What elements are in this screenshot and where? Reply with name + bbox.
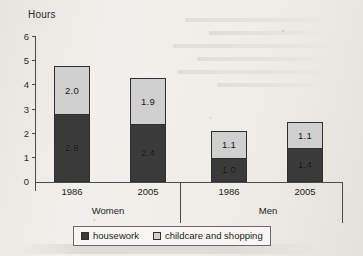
bar-segment-housework-women-1986[interactable]: 2.8 [54, 114, 90, 182]
bar-segment-childcare-men-2005[interactable]: 1.1 [287, 122, 323, 149]
bar-segment-childcare-men-1986[interactable]: 1.1 [211, 131, 247, 158]
y-axis-title: Hours [28, 9, 56, 20]
legend-label-childcare-and-shopping: childcare and shopping [165, 231, 263, 241]
bar-value-label: 2.0 [65, 86, 79, 96]
y-tick-label-3: 3 [15, 103, 29, 114]
y-tick-label-2: 2 [15, 127, 29, 138]
x-axis-label-men-2005: 2005 [275, 186, 335, 197]
group-label-men: Men [223, 205, 313, 216]
group-axis-band: Women Men [35, 203, 343, 223]
bar-value-label: 1.1 [222, 140, 236, 150]
bar-men-2005[interactable]: 1.1 1.4 [287, 122, 323, 182]
bar-value-label: 1.0 [222, 165, 236, 175]
bar-segment-housework-men-1986[interactable]: 1.0 [211, 158, 247, 182]
bar-value-label: 2.4 [141, 148, 155, 158]
bar-value-label: 1.1 [298, 131, 312, 141]
bar-value-label: 1.4 [298, 160, 312, 170]
bar-men-1986[interactable]: 1.1 1.0 [211, 131, 247, 182]
group-label-women: Women [63, 205, 153, 216]
bar-segment-childcare-women-2005[interactable]: 1.9 [130, 78, 166, 124]
y-tick-label-6: 6 [15, 31, 29, 42]
category-tick-left [35, 183, 36, 191]
y-tick-label-1: 1 [15, 151, 29, 162]
bar-series-container: 2.0 2.8 1.9 2.4 1.1 [35, 34, 343, 182]
bar-women-2005[interactable]: 1.9 2.4 [130, 78, 166, 182]
plot-area: 6 5 4 3 2 1 0 2.0 2.8 1.9 [35, 34, 343, 183]
x-axis-label-women-1986: 1986 [42, 186, 102, 197]
bar-segment-housework-women-2005[interactable]: 2.4 [130, 124, 166, 182]
category-axis-band: 1986 2005 1986 2005 [35, 183, 343, 203]
legend-item-childcare-and-shopping[interactable]: childcare and shopping [153, 231, 263, 241]
legend-swatch-childcare-icon [153, 232, 161, 240]
y-tick-label-4: 4 [15, 79, 29, 90]
y-tick-label-5: 5 [15, 55, 29, 66]
bar-women-1986[interactable]: 2.0 2.8 [54, 66, 90, 182]
bar-segment-housework-men-2005[interactable]: 1.4 [287, 148, 323, 182]
legend-swatch-housework-icon [81, 232, 89, 240]
bar-value-label: 1.9 [141, 97, 155, 107]
legend-label-housework: housework [93, 231, 139, 241]
x-axis-label-men-1986: 1986 [199, 186, 259, 197]
legend-item-housework[interactable]: housework [81, 231, 139, 241]
bar-value-label: 2.8 [65, 143, 79, 153]
chart-legend: housework childcare and shopping [73, 226, 271, 246]
x-axis-label-women-2005: 2005 [118, 186, 178, 197]
y-tick-label-0: 0 [15, 176, 29, 187]
stacked-bar-chart: Hours 6 5 4 3 2 1 0 2.0 2.8 [0, 0, 363, 256]
bar-segment-childcare-women-1986[interactable]: 2.0 [54, 66, 90, 114]
